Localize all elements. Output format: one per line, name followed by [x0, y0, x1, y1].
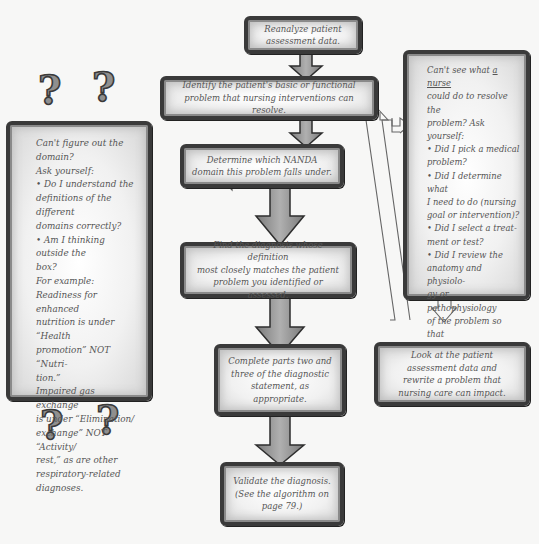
flow-box-identify: Identify the patient's basic or function… [160, 76, 378, 120]
help-line: domains correctly? [36, 220, 140, 234]
down-arrow-2 [290, 119, 322, 147]
help-line: Can't see what a nurse [427, 64, 520, 90]
help-line: gy or pathophysiology [427, 288, 520, 314]
flow-box-complete: Complete parts two and three of the diag… [214, 344, 346, 416]
help-line: Impaired gas exchange [36, 385, 140, 413]
down-arrow-5 [256, 415, 304, 465]
flow-box-reanalyze: Reanalyze patient assessment data. [244, 16, 362, 54]
flow-box-text: Determine which NANDA domain this proble… [192, 154, 332, 179]
help-line: • Did I review the [427, 249, 520, 262]
help-line: ment or test? [427, 236, 520, 249]
help-line: For example: [36, 275, 140, 289]
question-mark-icon: ? [92, 67, 115, 107]
flow-box-text: Identify the patient's basic or function… [172, 79, 366, 117]
flow-box-text: Find the diagnosis whose definition most… [192, 239, 344, 302]
help-line: definitions of the different [36, 192, 140, 220]
help-line: is under “Elimination/ [36, 413, 140, 427]
help-line: respiratory-related [36, 468, 140, 482]
help-line: Readiness for enhanced [36, 289, 140, 317]
nurse-help-box: Can't see what a nurse could do to resol… [403, 50, 530, 300]
help-line-text: Can't see what [427, 65, 493, 75]
flow-box-text: Look at the patient assessment data and … [398, 349, 506, 399]
help-line: rest,” as are other [36, 454, 140, 468]
help-line: • Did I select a treat- [427, 222, 520, 235]
down-arrow-3 [256, 186, 304, 245]
question-mark-icon: ? [38, 70, 61, 110]
flow-box-determine: Determine which NANDA domain this proble… [180, 144, 344, 188]
help-line: tion.” [36, 372, 140, 386]
help-line: Can't figure out the domain? [36, 137, 140, 165]
help-line: • Did I determine what [427, 170, 520, 196]
rewrite-problem-box: Look at the patient assessment data and … [374, 342, 530, 406]
help-line: • Am I thinking outside the [36, 234, 140, 262]
help-line: promotion” NOT “Nutri- [36, 344, 140, 372]
flow-box-text: Reanalyze patient assessment data. [264, 23, 341, 48]
help-line: Ask yourself: [36, 165, 140, 179]
domain-help-box: Can't figure out the domain? Ask yoursel… [6, 121, 152, 401]
help-line: could do to resolve the [427, 90, 520, 116]
help-line: anatomy and physiolo- [427, 262, 520, 288]
help-line: problem? [427, 156, 520, 169]
help-line: box? [36, 261, 140, 275]
help-line: nutrition is under “Health [36, 316, 140, 344]
help-line: I need to do (nursing [427, 196, 520, 209]
help-line: problem? Ask yourself: [427, 117, 520, 143]
help-line: • Do I understand the [36, 178, 140, 192]
help-line: goal or intervention)? [427, 209, 520, 222]
help-line: of the problem so that [427, 315, 520, 341]
help-line: diagnoses. [36, 482, 140, 496]
flow-box-find: Find the diagnosis whose definition most… [180, 242, 356, 298]
flow-box-text: Complete parts two and three of the diag… [226, 355, 334, 405]
help-line: exchange” NOT “Activity/ [36, 427, 140, 455]
help-line: • Did I pick a medical [427, 143, 520, 156]
flow-box-text: Validate the diagnosis. (See the algorit… [233, 475, 331, 513]
flow-box-validate: Validate the diagnosis. (See the algorit… [220, 462, 344, 526]
